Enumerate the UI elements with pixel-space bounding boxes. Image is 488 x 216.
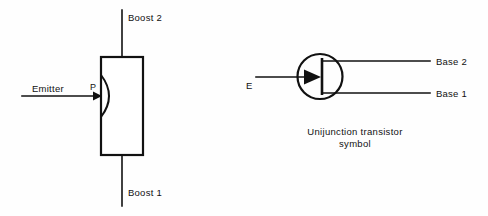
boost1-label: Boost 1 — [128, 187, 162, 198]
figure-caption-line-2: symbol — [339, 138, 371, 149]
figure-canvas: Boost 2 Boost 1 Emitter P E Base 2 Base … — [0, 0, 488, 216]
figure-caption-line-1: Unijunction transistor — [307, 126, 402, 137]
base1-label: Base 1 — [436, 88, 467, 99]
emitter-terminal-label: E — [246, 80, 253, 91]
boost2-label: Boost 2 — [128, 12, 162, 23]
p-region-label: P — [90, 82, 96, 92]
base2-label: Base 2 — [436, 56, 467, 67]
unijunction-transistor-figure: Boost 2 Boost 1 Emitter P E Base 2 Base … — [0, 0, 488, 216]
left-construction-diagram: Boost 2 Boost 1 Emitter P — [22, 10, 162, 206]
right-symbol-diagram: E Base 2 Base 1 Unijunction transistor s… — [246, 54, 467, 149]
emitter-label: Emitter — [32, 83, 64, 94]
emitter-arrowhead-icon-symbol — [304, 70, 321, 85]
